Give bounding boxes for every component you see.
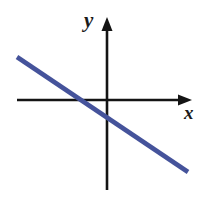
x-axis-label: x [184, 103, 194, 122]
y-axis-label: y [84, 10, 93, 31]
graph-figure: y x [0, 0, 207, 199]
coordinate-plane [0, 0, 207, 199]
function-line [17, 57, 188, 172]
y-axis-arrowhead [102, 17, 113, 31]
